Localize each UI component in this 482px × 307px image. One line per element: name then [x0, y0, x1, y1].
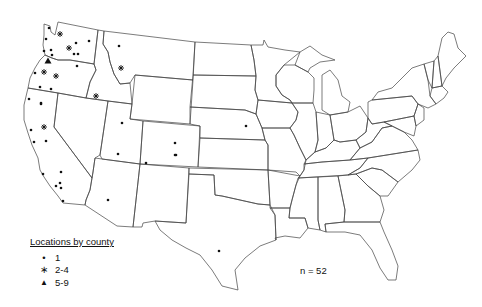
asterisk-marker [93, 93, 99, 99]
dot-marker [45, 140, 48, 143]
state-michigan [295, 46, 350, 115]
dot-marker [50, 49, 53, 52]
dot-marker [33, 141, 36, 144]
dot-marker [174, 142, 177, 145]
state-kansas [198, 138, 268, 170]
dot-marker [50, 88, 53, 91]
state-maryland-delaware [384, 116, 416, 136]
dot-marker [118, 45, 121, 48]
asterisk-marker [57, 31, 63, 37]
state-new-mexico [133, 164, 189, 227]
state-georgia [338, 174, 384, 222]
dot-marker [59, 182, 62, 185]
dot-marker [145, 162, 148, 165]
state-texas [155, 174, 276, 290]
dot-marker [60, 187, 63, 190]
state-new-york [372, 64, 436, 108]
legend-label: 5-9 [55, 277, 69, 290]
state-iowa [256, 100, 298, 128]
dot-marker [62, 200, 65, 203]
sample-size-label: n = 52 [300, 265, 327, 276]
state-utah [100, 101, 143, 164]
legend: Locations by county • 1 ∗ 2-4 ▲ 5-9 [30, 236, 114, 289]
state-massachusetts-ri-ct [430, 86, 448, 104]
dot-marker [48, 27, 51, 30]
triangle-icon: ▲ [37, 277, 51, 290]
dot-marker [174, 154, 177, 157]
dot-marker [75, 42, 78, 45]
state-oregon [28, 55, 96, 98]
state-arizona [85, 158, 140, 227]
dot-icon: • [37, 252, 51, 265]
state-oklahoma [189, 168, 270, 205]
legend-item-single: • 1 [30, 252, 114, 265]
state-kentucky [304, 140, 360, 164]
asterisk-icon: ∗ [37, 264, 51, 277]
state-wyoming [130, 75, 193, 124]
asterisk-marker [66, 45, 72, 51]
state-north-dakota [193, 42, 256, 76]
dot-marker [117, 153, 120, 156]
asterisk-marker [41, 124, 47, 130]
dot-marker [73, 53, 76, 56]
legend-label: 1 [55, 252, 60, 265]
state-illinois [290, 103, 318, 160]
state-minnesota [251, 40, 300, 103]
asterisk-marker [53, 73, 59, 79]
dot-marker [121, 122, 124, 125]
dot-marker [88, 40, 91, 43]
state-virginia [350, 126, 418, 160]
dot-marker [60, 171, 63, 174]
dot-marker [77, 53, 80, 56]
triangle-marker [45, 58, 52, 64]
legend-item-many: ▲ 5-9 [30, 277, 114, 290]
dot-marker [43, 50, 46, 53]
state-california [24, 88, 92, 205]
dot-marker [30, 129, 33, 132]
dot-marker [45, 38, 48, 41]
asterisk-marker [118, 65, 124, 71]
dot-marker [55, 185, 58, 188]
state-florida [325, 222, 398, 280]
state-missouri [262, 128, 306, 176]
state-nevada [54, 93, 108, 178]
dot-marker [34, 72, 37, 75]
asterisk-marker [41, 69, 47, 75]
state-south-carolina [356, 168, 398, 196]
location-markers [28, 27, 248, 253]
state-indiana [315, 112, 334, 152]
state-pennsylvania [368, 96, 418, 124]
dot-marker [218, 250, 221, 253]
legend-label: 2-4 [55, 264, 69, 277]
dot-marker [107, 199, 110, 202]
legend-title: Locations by county [30, 236, 114, 249]
dot-marker [40, 103, 43, 106]
dot-marker [39, 86, 42, 89]
dot-marker [51, 54, 54, 57]
state-tennessee [298, 158, 368, 178]
state-maine [438, 32, 466, 86]
state-nebraska [190, 107, 265, 140]
state-mississippi [289, 177, 320, 230]
state-idaho [86, 30, 132, 104]
state-ohio [330, 106, 368, 142]
dot-marker [76, 65, 79, 68]
state-colorado [140, 121, 200, 167]
dot-marker [245, 125, 248, 128]
legend-item-few: ∗ 2-4 [30, 264, 114, 277]
state-south-dakota [190, 75, 258, 114]
dot-marker [28, 98, 31, 101]
state-louisiana [270, 208, 308, 240]
dot-marker [42, 173, 45, 176]
state-west-virginia [356, 118, 392, 148]
